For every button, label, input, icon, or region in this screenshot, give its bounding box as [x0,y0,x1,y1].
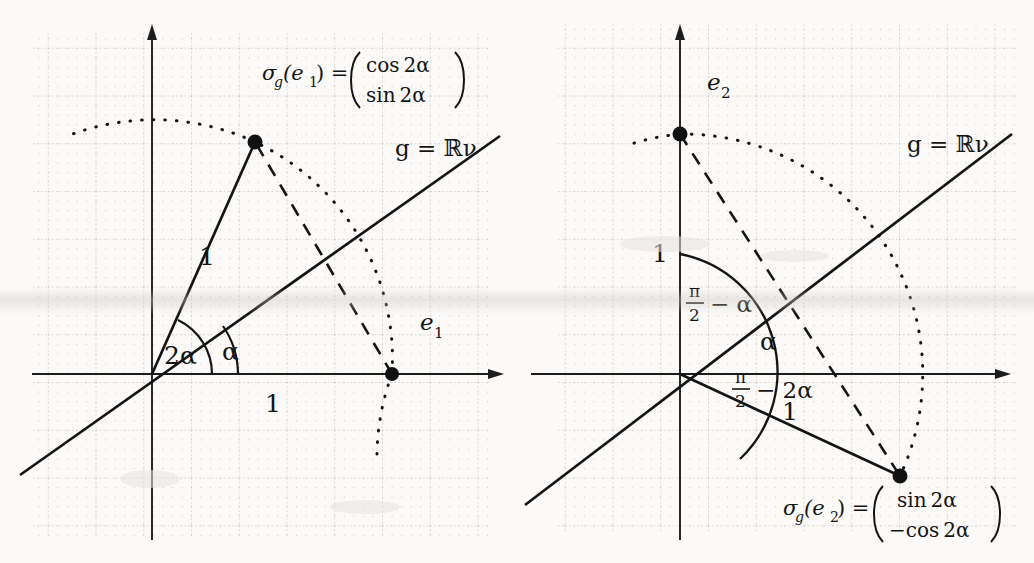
label-axis-e2-subscript: 2 [721,84,731,102]
graph-paper-grid [557,22,1017,532]
panel-reflection-of-e1: σ g (e 1 ) = cos 2α sin 2α g = ℝν e 1 2α… [0,0,517,563]
point-e1 [385,367,399,381]
formula2-sigma-subscript: g [795,509,804,525]
fraction2-numerator-pi: π [735,367,746,387]
fraction-denominator-two: 2 [689,305,700,325]
label-length-one-horizontal: 1 [265,389,281,418]
fraction-numerator-pi: π [689,281,700,301]
formula-sigma-subscript: g [274,74,283,90]
label-angle-alpha: α [760,327,777,356]
formula2-argument: (e [804,496,825,520]
point-sigma-e1 [248,135,263,150]
graph-paper-grid [32,32,490,537]
point-sigma-e2 [893,469,908,484]
label-line-g: g = ℝν [395,135,477,161]
fraction2-denominator-two: 2 [735,391,746,411]
matrix2-row-1: sin 2α [897,488,957,512]
formula-equals: ) = [316,61,348,85]
fraction-remainder: − α [710,291,752,317]
left-panel-svg: σ g (e 1 ) = cos 2α sin 2α g = ℝν e 1 2α… [0,0,517,563]
formula2-equals: ) = [837,496,869,520]
label-axis-e1-base: e [420,309,434,335]
label-length-one-slanted: 1 [199,242,215,271]
label-angle-two-alpha: 2α [164,341,197,370]
label-axis-e1-subscript: 1 [434,324,444,342]
label-length-one-vertical: 1 [652,239,668,268]
point-e2 [673,127,688,142]
matrix-row-1: cos 2α [366,53,430,77]
x-axis-arrowhead [488,369,504,379]
matrix-row-2: sin 2α [366,83,426,107]
panel-reflection-of-e2: e 2 g = ℝν 1 1 π 2 − α α π 2 − 2α [517,0,1034,563]
right-panel-svg: e 2 g = ℝν 1 1 π 2 − α α π 2 − 2α [517,0,1034,563]
diagram-canvas: σ g (e 1 ) = cos 2α sin 2α g = ℝν e 1 2α… [0,0,1034,563]
label-angle-alpha: α [222,337,239,366]
fraction2-remainder: − 2α [756,377,813,403]
label-axis-e2-base: e [707,69,721,95]
formula-argument: (e [283,61,304,85]
label-line-g: g = ℝν [907,131,989,157]
matrix2-row-2: −cos 2α [889,518,970,542]
